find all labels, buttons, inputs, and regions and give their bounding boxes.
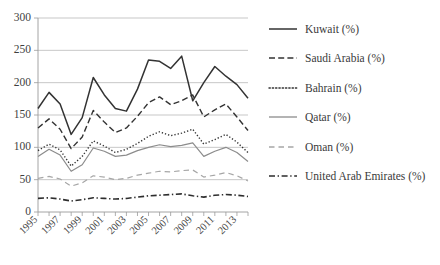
x-axis-label: 2013 xyxy=(216,214,239,237)
x-axis-label: 1999 xyxy=(61,214,84,237)
legend-item[interactable]: Saudi Arabia (%) xyxy=(268,44,440,74)
legend-line-sample xyxy=(268,141,298,153)
chart-legend: Kuwait (%)Saudi Arabia (%)Bahrain (%)Qat… xyxy=(268,14,440,191)
y-axis-label: 150 xyxy=(14,108,32,120)
legend-line-sample xyxy=(268,52,298,64)
legend-item-label: Qatar (%) xyxy=(305,111,351,123)
legend-item[interactable]: Kuwait (%) xyxy=(268,14,440,44)
legend-item-label: Bahrain (%) xyxy=(305,82,362,94)
y-axis-label: 300 xyxy=(14,11,32,23)
legend-item[interactable]: Bahrain (%) xyxy=(268,73,440,103)
x-axis-label: 2005 xyxy=(127,214,150,237)
plot-area: 0501001502002503001995199719992001200320… xyxy=(0,0,260,265)
x-axis-label: 1995 xyxy=(17,214,40,237)
legend-line-sample xyxy=(268,170,298,182)
legend-line-sample xyxy=(268,82,298,94)
chart-container: 0501001502002503001995199719992001200320… xyxy=(0,0,440,265)
legend-line-sample xyxy=(268,23,298,35)
legend-item-label: Saudi Arabia (%) xyxy=(305,52,385,64)
x-axis-label: 2003 xyxy=(105,214,128,237)
legend-item-label: United Arab Emirates (%) xyxy=(305,170,425,182)
legend-item-label: Kuwait (%) xyxy=(305,23,359,35)
x-axis-label: 2011 xyxy=(194,214,216,236)
x-axis-label: 2009 xyxy=(172,214,195,237)
legend-item[interactable]: Qatar (%) xyxy=(268,103,440,133)
legend-item[interactable]: United Arab Emirates (%) xyxy=(268,162,440,192)
x-axis-label: 1997 xyxy=(39,214,62,237)
legend-item-label: Oman (%) xyxy=(305,141,353,153)
y-axis-label: 100 xyxy=(14,140,32,152)
y-axis-label: 50 xyxy=(20,173,32,185)
y-axis-label: 250 xyxy=(14,43,32,55)
gridlines: 050100150200250300 xyxy=(14,11,248,217)
legend-line-sample xyxy=(268,111,298,123)
x-axis-label: 2001 xyxy=(83,214,106,237)
x-axis-ticks: 1995199719992001200320052007200920112013 xyxy=(17,212,248,236)
series-line-oman xyxy=(38,170,248,186)
y-axis-label: 200 xyxy=(14,76,32,88)
series-line-kuwait xyxy=(38,56,248,134)
line-chart-svg: 0501001502002503001995199719992001200320… xyxy=(0,0,260,265)
series-line-saudi-arabia xyxy=(38,95,248,149)
x-axis-label: 2007 xyxy=(149,214,172,237)
legend-item[interactable]: Oman (%) xyxy=(268,132,440,162)
series-line-united-arab-emirates xyxy=(38,194,248,201)
